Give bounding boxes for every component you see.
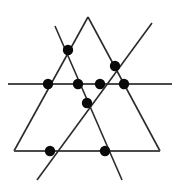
- point-horizontal-1: [43, 79, 53, 89]
- point-horizontal-2: [73, 79, 83, 89]
- point-upper-left: [63, 45, 73, 55]
- points-group: [43, 45, 129, 156]
- figure-container: [0, 0, 179, 187]
- lines-group: [8, 17, 172, 180]
- point-upper-right: [110, 61, 120, 71]
- point-bottom-left: [45, 146, 55, 156]
- diagonal-down-left: [37, 23, 152, 180]
- point-center: [82, 98, 92, 108]
- point-horizontal-4: [119, 79, 129, 89]
- point-horizontal-3: [95, 79, 105, 89]
- geometric-figure-canvas: [0, 0, 179, 187]
- point-bottom-right: [100, 146, 110, 156]
